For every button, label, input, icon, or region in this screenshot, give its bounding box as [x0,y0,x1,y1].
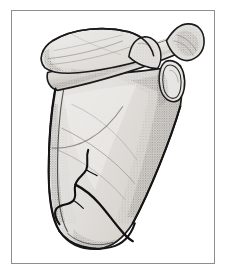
scapula-illustration [12,11,214,263]
figure-root: Scapula, posterior view, with fracture p… [0,0,227,276]
illustration-frame [11,10,215,264]
